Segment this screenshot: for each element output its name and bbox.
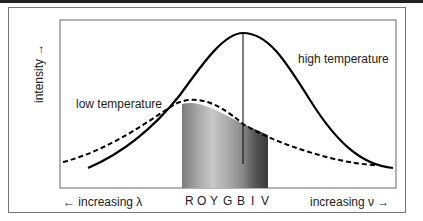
spectrum-letter-y: Y	[210, 194, 218, 208]
spectrum-letter-o: O	[197, 194, 206, 208]
spectrum-letter-v: V	[261, 194, 269, 208]
y-axis-label: intensity →	[32, 44, 46, 103]
increasing-frequency-label: increasing ν →	[310, 195, 389, 209]
spectrum-letter-r: R	[185, 194, 194, 208]
increasing-wavelength-label: ← increasing λ	[63, 195, 142, 209]
low-temperature-label: low temperature	[76, 97, 162, 111]
high-temperature-label: high temperature	[298, 52, 389, 66]
spectrum-letter-b: B	[237, 194, 245, 208]
visible-spectrum-band	[182, 103, 268, 188]
spectrum-letter-g: G	[223, 194, 232, 208]
blackbody-plot	[0, 0, 423, 221]
spectrum-letter-i: I	[251, 194, 254, 208]
